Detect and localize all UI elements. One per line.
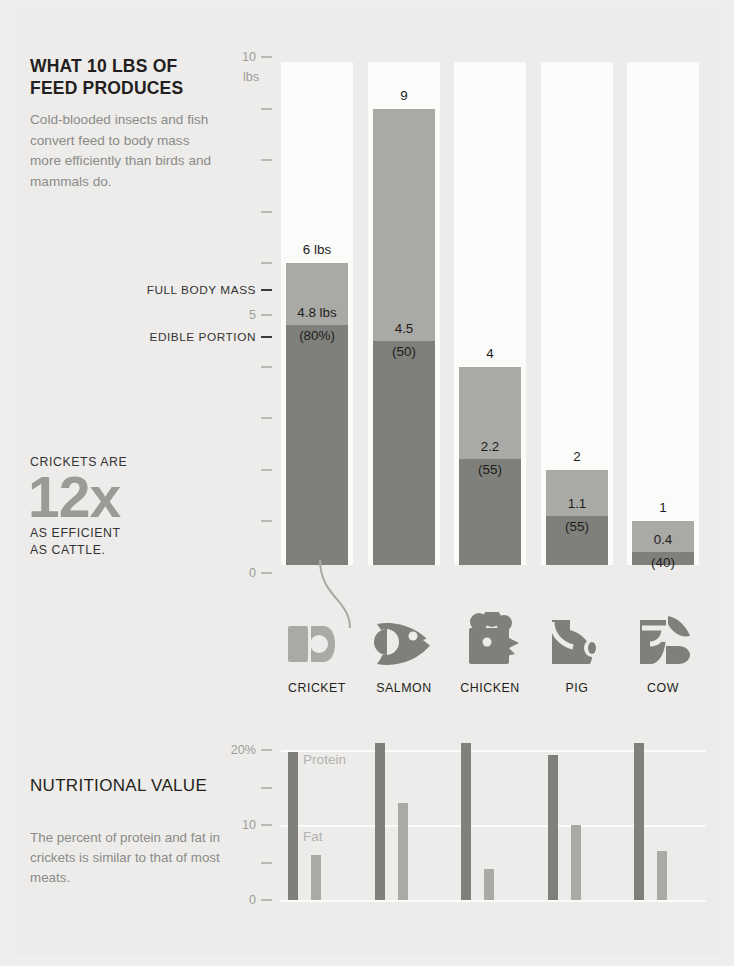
nutrition-tick-20: 20% xyxy=(200,742,272,758)
nutritional-value-chart: 20%100 Protein Fat xyxy=(0,0,734,966)
nutrition-tick-5 xyxy=(200,855,272,871)
infographic-page: WHAT 10 LBS OF FEED PRODUCES Cold-bloode… xyxy=(0,0,734,966)
fat-bar-cow xyxy=(657,851,667,900)
tick-dash-icon xyxy=(261,749,272,751)
gridline-0 xyxy=(281,900,706,902)
protein-bar-chicken xyxy=(461,743,471,901)
tick-dash-icon xyxy=(261,899,272,901)
legend-protein: Protein xyxy=(303,752,346,767)
protein-bar-cow xyxy=(634,743,644,901)
fat-bar-pig xyxy=(571,825,581,900)
legend-fat: Fat xyxy=(303,829,323,844)
fat-bar-salmon xyxy=(398,803,408,901)
nutrition-tick-0: 0 xyxy=(200,892,272,908)
nutrition-tick-label: 10 xyxy=(242,818,256,832)
fat-bar-chicken xyxy=(484,869,494,901)
protein-bar-cricket xyxy=(288,752,298,900)
tick-dash-icon xyxy=(261,787,272,789)
nutrition-tick-10: 10 xyxy=(200,817,272,833)
fat-bar-cricket xyxy=(311,855,321,900)
tick-dash-icon xyxy=(261,824,272,826)
nutrition-tick-label: 0 xyxy=(249,893,256,907)
protein-bar-salmon xyxy=(375,743,385,901)
nutrition-tick-15 xyxy=(200,780,272,796)
nutrition-tick-label: 20% xyxy=(231,743,256,757)
tick-dash-icon xyxy=(261,862,272,864)
protein-bar-pig xyxy=(548,755,558,900)
